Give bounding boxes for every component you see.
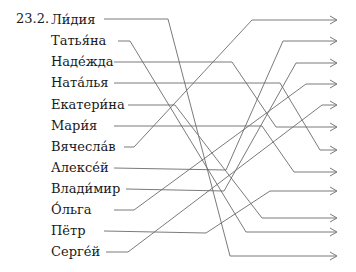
- line-pyotr: [104, 191, 336, 233]
- matching-lines: [0, 0, 356, 272]
- line-tatyana: [118, 41, 336, 232]
- line-nadezhda: [114, 62, 336, 127]
- arrowheads: [330, 16, 337, 260]
- line-aleksey: [114, 41, 336, 170]
- line-natalya: [114, 83, 336, 150]
- line-ekaterina: [128, 105, 336, 218]
